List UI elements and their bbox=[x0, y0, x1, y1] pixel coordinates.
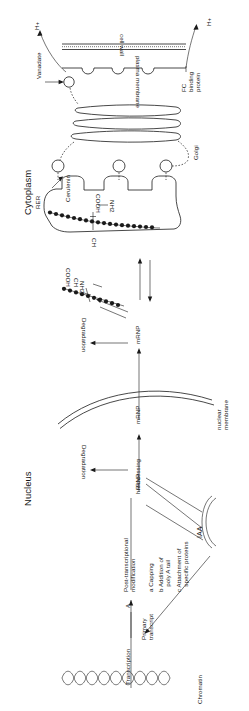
iaa-inhibitor-graphic bbox=[146, 478, 216, 548]
chain-label-cooh-rer: COOH bbox=[95, 194, 102, 213]
molecule-label-proton-bottom: H+ bbox=[205, 18, 212, 26]
molecule-label-proton-top: H+ bbox=[33, 22, 40, 30]
nascent-chain-rer-graphic bbox=[48, 205, 160, 230]
vanadate-vesicle-graphic bbox=[45, 77, 78, 104]
structure-label-cell-wall: cell wall bbox=[119, 34, 126, 56]
molecule-label-fc-binding-protein: FC binding protein bbox=[180, 72, 202, 92]
modification-step-a: a Capping bbox=[147, 563, 154, 592]
compartment-label-nucleus: Nucleus bbox=[22, 471, 33, 506]
molecule-label-iaa: IAA bbox=[196, 527, 204, 538]
chain-label-nh2-rer: NH2 bbox=[109, 200, 116, 213]
structure-label-golgi: Golgi bbox=[192, 145, 199, 160]
chain-label-ch-rer: CH bbox=[91, 238, 98, 247]
chain-label-cooh-free: COOH bbox=[65, 268, 72, 287]
structure-label-rer: RER bbox=[34, 196, 41, 209]
transport-vesicles-graphic bbox=[52, 160, 188, 180]
structure-label-nuclear-membrane: nuclear membrane bbox=[215, 400, 229, 430]
rna-label-primary-transcript: Primary transcript bbox=[140, 614, 154, 640]
process-label-degradation-nuclear: Degradation bbox=[81, 445, 88, 479]
compartment-label-cytoplasm: Cytoplasm bbox=[22, 170, 33, 215]
rna-label-mrnp-cytoplasm: mRNP bbox=[134, 326, 141, 344]
rna-label-hnrnp: hnRNP bbox=[134, 474, 141, 494]
modification-step-b: b Addition of poly A tail bbox=[157, 557, 171, 592]
chain-label-ch-free: CH bbox=[73, 278, 80, 287]
molecule-label-vanadate: Vanadate bbox=[35, 53, 42, 79]
free-polysome-graphic bbox=[62, 284, 124, 307]
structure-label-chromatin: Chromatin bbox=[196, 675, 203, 704]
molecule-label-cerulenin: Cerulenin bbox=[64, 175, 71, 202]
proton-efflux-bottom-graphic bbox=[186, 24, 199, 72]
degradation-cytoplasm-arrow-graphic bbox=[90, 341, 128, 346]
ribosome-cycle-arrows-graphic bbox=[138, 258, 152, 302]
golgi-graphic bbox=[60, 105, 189, 160]
process-label-post-transcriptional-modification: Post-transcriptional modification bbox=[122, 538, 136, 592]
process-label-transcription: Transcription bbox=[124, 649, 131, 685]
structure-label-plasma-membrane: plasma membrane bbox=[135, 56, 142, 108]
rna-label-mrnp-nuclear: mRNP bbox=[134, 406, 141, 424]
process-label-transcription-step: A bbox=[124, 604, 131, 608]
process-label-degradation-cytoplasm: Degradation bbox=[81, 318, 88, 352]
plasma-membrane-graphic bbox=[62, 68, 186, 74]
degradation-nuclear-arrow-graphic bbox=[90, 468, 128, 473]
modification-step-c: c Attachment of specific proteins bbox=[175, 541, 189, 592]
chromatin-graphic bbox=[62, 671, 170, 685]
